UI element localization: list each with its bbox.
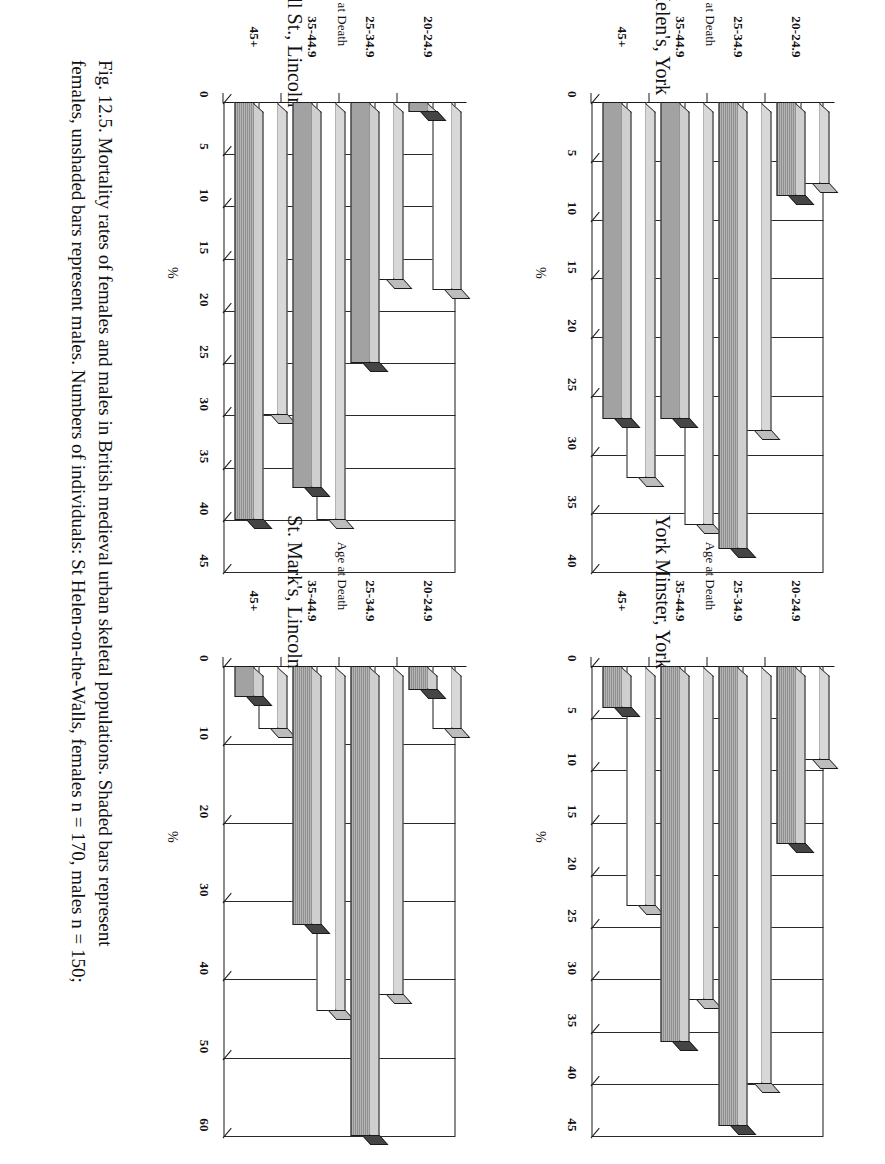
gridline-35 bbox=[591, 1032, 823, 1033]
y-axis-tick-label: 45 bbox=[563, 1088, 579, 1132]
x-axis-category-label: 20-24.9 bbox=[419, 0, 435, 90]
x-category-tick bbox=[648, 657, 649, 667]
bar-body bbox=[432, 102, 452, 290]
x-category-tick bbox=[648, 93, 649, 103]
y-axis-title: % bbox=[163, 267, 179, 279]
bar-top-face bbox=[795, 667, 805, 852]
x-axis-category-label: 20-24.9 bbox=[787, 0, 803, 90]
bar-females-45+ bbox=[602, 666, 622, 708]
bar-females-25-34.9 bbox=[718, 102, 738, 549]
figure-page: 051015202530354020-24.925-34.935-44.945+… bbox=[0, 0, 885, 1164]
bar-top-face bbox=[335, 103, 345, 528]
x-category-tick bbox=[590, 93, 591, 103]
y-axis-tick-label: 35 bbox=[195, 420, 211, 464]
y-axis-tick-label: 40 bbox=[195, 931, 211, 975]
bar-body bbox=[718, 102, 738, 549]
bar-body bbox=[602, 102, 622, 419]
bar-top-face bbox=[795, 103, 805, 204]
bar-top-face bbox=[819, 667, 829, 768]
y-axis-tick-label: 25 bbox=[195, 315, 211, 359]
bar-top-face bbox=[277, 103, 287, 423]
figure-caption-line-1: Fig. 12.5. Mortality rates of females an… bbox=[90, 60, 117, 1120]
bar-body bbox=[234, 666, 254, 697]
x-axis-category-label: 45+ bbox=[245, 548, 261, 654]
bar-females-45+ bbox=[602, 102, 622, 419]
y-axis-tick-label: 10 bbox=[195, 158, 211, 202]
x-category-tick bbox=[280, 93, 281, 103]
bar-females-20-24.9 bbox=[408, 102, 428, 112]
bar-top-face bbox=[679, 103, 689, 427]
x-category-tick bbox=[396, 657, 397, 667]
y-axis-tick-label: 15 bbox=[195, 211, 211, 255]
x-category-tick bbox=[764, 657, 765, 667]
y-axis-tick-label: 30 bbox=[563, 407, 579, 451]
y-axis-tick-label: 30 bbox=[195, 367, 211, 411]
bar-top-face bbox=[451, 103, 461, 298]
x-axis-category-label: 20-24.9 bbox=[787, 548, 803, 654]
x-axis-category-label: 45+ bbox=[613, 0, 629, 90]
figure-caption-line-2: females, unshaded bars represent males. … bbox=[63, 60, 90, 1120]
y-axis-tick-label: 20 bbox=[195, 775, 211, 819]
y-axis-tick-label: 5 bbox=[563, 670, 579, 714]
bar-body bbox=[718, 666, 738, 1126]
bar-top-face bbox=[393, 667, 403, 1003]
y-axis-tick-label: 30 bbox=[563, 931, 579, 975]
y-axis-tick-label: 35 bbox=[563, 465, 579, 509]
x-category-tick bbox=[396, 93, 397, 103]
bar-body bbox=[350, 102, 370, 363]
x-category-tick bbox=[764, 93, 765, 103]
bar-females-25-34.9 bbox=[718, 666, 738, 1126]
gridline-60 bbox=[223, 1136, 455, 1137]
plot-area: 051015202530354020-24.925-34.935-44.945+ bbox=[591, 102, 823, 572]
bar-body bbox=[776, 666, 796, 844]
y-axis-tick-label: 0 bbox=[195, 618, 211, 662]
y-axis-tick-label: 20 bbox=[563, 289, 579, 333]
y-axis-tick-label: 5 bbox=[195, 106, 211, 150]
y-axis-title: % bbox=[531, 831, 547, 843]
x-category-tick bbox=[222, 657, 223, 667]
y-axis-tick-label: 30 bbox=[195, 853, 211, 897]
gridline-40 bbox=[591, 1084, 823, 1085]
bar-females-45+ bbox=[234, 666, 254, 697]
bar-top-face bbox=[253, 103, 263, 528]
bar-top-face bbox=[737, 103, 747, 557]
x-axis-category-label: 25-34.9 bbox=[729, 548, 745, 654]
gridline-45 bbox=[591, 1136, 823, 1137]
y-axis-tick-label: 10 bbox=[195, 696, 211, 740]
bar-females-20-24.9 bbox=[408, 666, 428, 690]
bar-body bbox=[408, 102, 428, 112]
bar-top-face bbox=[645, 667, 655, 914]
bar-body bbox=[602, 666, 622, 708]
bar-females-35-44.9 bbox=[660, 666, 680, 1042]
y-axis-tick-label: 50 bbox=[195, 1010, 211, 1054]
bar-females-20-24.9 bbox=[776, 666, 796, 844]
y-axis-tick-label: 15 bbox=[563, 775, 579, 819]
bar-top-face bbox=[645, 103, 655, 486]
y-axis-title: % bbox=[531, 267, 547, 279]
x-category-tick bbox=[222, 93, 223, 103]
bar-top-face bbox=[679, 667, 689, 1050]
bar-top-face bbox=[369, 667, 379, 1144]
y-axis-tick-label: 45 bbox=[195, 524, 211, 568]
y-axis-tick-label: 0 bbox=[563, 54, 579, 98]
y-axis-tick-label: 60 bbox=[195, 1088, 211, 1132]
y-axis-tick-label: 10 bbox=[563, 722, 579, 766]
x-category-tick bbox=[590, 657, 591, 667]
bar-males-20-24.9 bbox=[432, 102, 452, 290]
y-axis-tick-label: 0 bbox=[195, 54, 211, 98]
x-axis-category-label: 25-34.9 bbox=[729, 0, 745, 90]
bar-top-face bbox=[393, 103, 403, 288]
y-axis-title: % bbox=[163, 831, 179, 843]
gridline-50 bbox=[223, 1058, 455, 1059]
bar-top-face bbox=[451, 667, 461, 737]
y-axis-tick-label: 40 bbox=[195, 472, 211, 516]
bar-top-face bbox=[703, 667, 713, 1008]
bar-females-35-44.9 bbox=[660, 102, 680, 419]
x-axis-category-label: 25-34.9 bbox=[361, 0, 377, 90]
bar-body bbox=[292, 666, 312, 925]
bar-body bbox=[234, 102, 254, 520]
bar-body bbox=[350, 666, 370, 1136]
bar-body bbox=[660, 666, 680, 1042]
chart-pennell-st-lincoln: 05101520253035404520-24.925-34.935-44.94… bbox=[137, 40, 477, 550]
bar-females-45+ bbox=[234, 102, 254, 520]
